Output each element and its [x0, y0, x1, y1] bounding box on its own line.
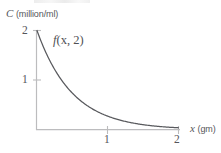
x-tick-label-1: 1 [104, 133, 110, 145]
x-tick-label-2: 2 [174, 133, 180, 145]
plot-canvas [0, 0, 221, 153]
x-axis-unit: (gm) [198, 124, 216, 134]
y-tick-label-2: 2 [22, 24, 28, 36]
exponential-decay-figure: C (million/ml) x (gm) 2 1 1 2 f(x, 2) [0, 0, 221, 153]
x-axis-label: x (gm) [190, 122, 216, 134]
curve-function-args: (x, 2) [56, 33, 83, 47]
y-tick-label-1: 1 [22, 73, 28, 85]
y-axis-label: C (million/ml) [6, 7, 58, 19]
y-axis-unit: (million/ml) [16, 9, 58, 19]
curve-function-label: f(x, 2) [53, 33, 84, 48]
